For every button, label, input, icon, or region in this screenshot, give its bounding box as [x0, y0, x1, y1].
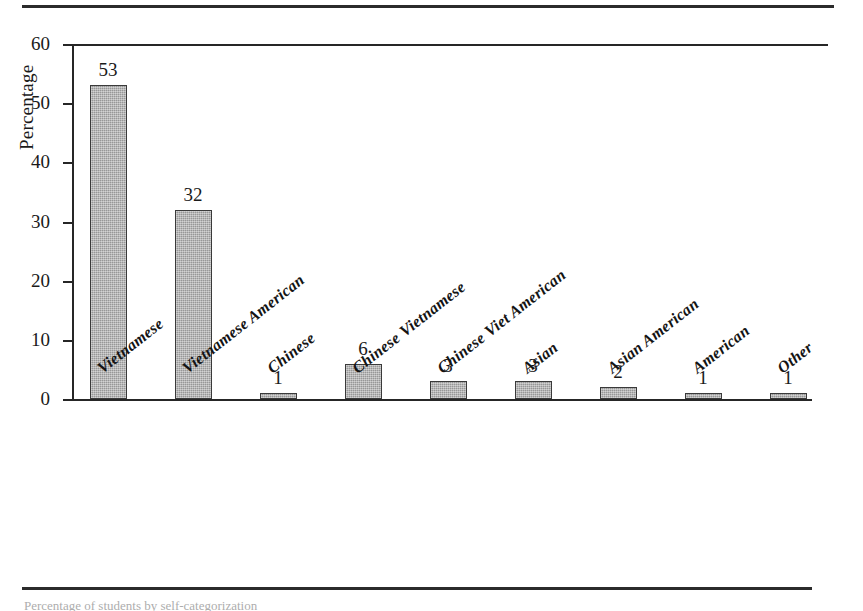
bar [600, 387, 637, 399]
bar [515, 381, 552, 399]
y-tick-10: 10 [63, 340, 72, 342]
y-tick-30: 30 [63, 222, 72, 224]
y-tick-label-10: 10 [31, 330, 50, 349]
y-axis-title: Percentage [16, 65, 38, 150]
y-tick-label-0: 0 [41, 389, 51, 408]
figure-bar-chart: 0102030405060 53321633211 Percentage Vie… [0, 0, 863, 611]
bar [770, 393, 807, 399]
bar-value-label: 53 [99, 60, 118, 79]
page-rule-bottom [22, 587, 812, 590]
y-tick-label-30: 30 [31, 212, 50, 231]
bar [430, 381, 467, 399]
y-tick-60: 60 [63, 44, 72, 46]
bar-value-label: 32 [184, 185, 203, 204]
figure-caption-sliver: Percentage of students by self-categoriz… [24, 598, 454, 611]
y-tick-label-40: 40 [31, 152, 50, 171]
y-tick-50: 50 [63, 103, 72, 105]
y-axis-line [72, 44, 74, 400]
bar [260, 393, 297, 399]
plot-top-border [72, 44, 828, 46]
y-tick-0: 0 [63, 399, 72, 401]
y-tick-20: 20 [63, 281, 72, 283]
y-tick-label-60: 60 [31, 34, 50, 53]
page-rule-top [22, 5, 834, 8]
x-axis-line [72, 399, 812, 401]
y-tick-label-20: 20 [31, 271, 50, 290]
y-tick-40: 40 [63, 162, 72, 164]
bar [685, 393, 722, 399]
